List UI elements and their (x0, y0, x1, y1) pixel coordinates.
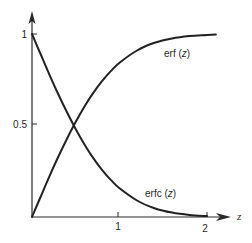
erf-curve (32, 35, 216, 218)
y-axis: 1 0.5 (13, 11, 37, 217)
y-tick-label-1: 1 (21, 29, 27, 40)
y-tick-label-0.5: 0.5 (13, 119, 27, 130)
x-tick-label-1: 1 (115, 221, 121, 232)
x-tick-label-2: 2 (202, 223, 208, 234)
x-axis-label: z (236, 210, 242, 222)
plot-area (32, 34, 216, 217)
x-axis: 1 2 z (32, 210, 242, 234)
erfc-curve (32, 34, 207, 216)
erfc-label: erfc (z) (145, 188, 176, 199)
erf-label: erf (z) (164, 48, 190, 59)
chart: 1 0.5 1 2 z erf (z) erfc (z) (0, 0, 252, 243)
